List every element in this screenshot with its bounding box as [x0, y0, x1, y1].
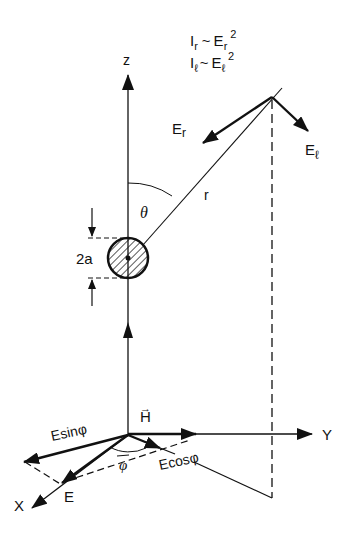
e-label: E [64, 488, 74, 505]
esin-label: Esinφ [49, 421, 88, 444]
er-label: Er [172, 120, 186, 140]
r-label: r [204, 187, 209, 203]
diameter-label: 2a [76, 250, 93, 267]
particle-sphere [108, 238, 148, 278]
phi-label: φ [119, 457, 127, 473]
projection-base-line [194, 462, 272, 498]
z-axis-label: z [123, 52, 130, 68]
incident-beam-arrow-icon [123, 322, 133, 338]
h-label: H [140, 408, 151, 425]
h-label-group: → H [140, 402, 151, 425]
x-axis-label: X [14, 497, 24, 514]
scattering-ray: r [143, 88, 282, 245]
el-label: Eℓ [305, 141, 319, 162]
y-axis-label: Y [322, 426, 332, 443]
scattering-diagram: Ir~Er2 Iℓ~Eℓ2 z 2a θ r Er Eℓ [0, 0, 359, 541]
ecos-label: Ecosφ [157, 449, 200, 473]
theta-angle: θ [128, 183, 172, 221]
relation-il: Iℓ~Eℓ2 [190, 50, 234, 74]
relation-ir: Ir~Er2 [190, 28, 236, 52]
y-axis: Y [128, 426, 332, 443]
theta-label: θ [140, 204, 148, 221]
intensity-relations: Ir~Er2 Iℓ~Eℓ2 [190, 28, 236, 74]
